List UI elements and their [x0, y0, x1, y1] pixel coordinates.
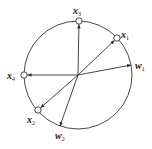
- label-x4: x4: [6, 70, 15, 82]
- point-x4-marker: [21, 72, 27, 78]
- point-x2-marker: [35, 107, 41, 113]
- label-x2: x2: [26, 114, 35, 126]
- vector-x3-arrow: [78, 24, 79, 75]
- label-w2: w2: [55, 130, 65, 142]
- point-x3-marker: [76, 18, 82, 24]
- label-x1: x1: [120, 29, 129, 41]
- kohonen-vector-diagram: x1x2x3x4w1w2: [0, 0, 152, 149]
- point-x1-marker: [114, 35, 120, 41]
- markers-group: [21, 18, 120, 113]
- vector-x1-arrow: [78, 40, 114, 75]
- vector-w1-arrow: [78, 65, 131, 75]
- label-w1: w1: [135, 60, 145, 72]
- label-x3: x3: [72, 5, 81, 17]
